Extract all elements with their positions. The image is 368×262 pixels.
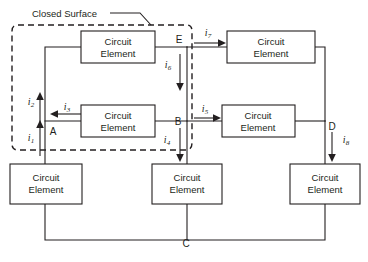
node-label-D: D xyxy=(328,121,335,132)
arrow-head xyxy=(176,154,184,162)
current-label-i4: i4 xyxy=(164,134,171,147)
current-arrow-i8 xyxy=(328,132,336,162)
current-label-i3: i3 xyxy=(64,101,71,114)
current-label-i8: i8 xyxy=(343,134,350,147)
current-label-i1: i1 xyxy=(28,132,34,145)
circuit-element-bottom-left[interactable]: Circuit Element xyxy=(10,164,82,204)
circuit-element-label-line2: Element xyxy=(29,184,64,195)
circuit-diagram-canvas: Circuit Element Circuit Element Circuit … xyxy=(0,0,368,262)
circuit-element-label-line1: Circuit xyxy=(174,172,201,183)
arrow-head xyxy=(36,92,44,100)
wire-network xyxy=(45,47,325,240)
circuit-element-label-line1: Circuit xyxy=(105,36,132,47)
diagram-svg: Circuit Element Circuit Element Circuit … xyxy=(0,0,368,262)
circuit-element-label-line2: Element xyxy=(254,48,289,59)
circuit-element-middle-left[interactable]: Circuit Element xyxy=(81,105,155,137)
wire-bottom-rail xyxy=(45,204,325,240)
arrow-head xyxy=(50,110,58,118)
current-label-i5: i5 xyxy=(202,103,209,116)
current-arrow-i7 xyxy=(194,39,226,47)
current-arrow-i2 xyxy=(36,92,44,125)
circuit-element-label-line2: Element xyxy=(170,184,205,195)
current-label-i7: i7 xyxy=(205,27,212,40)
wire-top-right-to-d xyxy=(315,47,325,121)
current-arrow-i6 xyxy=(176,54,184,91)
circuit-element-label-line2: Element xyxy=(308,184,343,195)
arrow-head xyxy=(328,154,336,162)
closed-surface-leader-line xyxy=(110,13,151,25)
circuit-element-label-line1: Circuit xyxy=(245,110,272,121)
circuit-element-label-line2: Element xyxy=(101,48,136,59)
circuit-element-bottom-right[interactable]: Circuit Element xyxy=(290,164,360,204)
closed-surface-label: Closed Surface xyxy=(32,8,97,19)
circuit-element-top-right[interactable]: Circuit Element xyxy=(227,31,315,63)
current-label-i2: i2 xyxy=(28,96,35,109)
circuit-element-label-line1: Circuit xyxy=(105,110,132,121)
current-label-i6: i6 xyxy=(165,59,172,72)
circuit-element-label-line1: Circuit xyxy=(258,36,285,47)
circuit-element-label-line2: Element xyxy=(241,122,276,133)
arrow-head xyxy=(176,83,184,91)
node-label-E: E xyxy=(176,34,183,45)
circuit-element-bottom-middle[interactable]: Circuit Element xyxy=(152,164,222,204)
circuit-element-top-left[interactable]: Circuit Element xyxy=(81,31,155,63)
current-arrow-i4 xyxy=(176,128,184,162)
circuit-element-label-line1: Circuit xyxy=(312,172,339,183)
node-label-A: A xyxy=(50,126,57,137)
arrow-head xyxy=(218,39,226,47)
circuit-element-middle-right[interactable]: Circuit Element xyxy=(222,105,295,137)
circuit-element-label-line2: Element xyxy=(101,122,136,133)
node-label-B: B xyxy=(175,116,182,127)
node-label-C: C xyxy=(182,238,189,249)
circuit-element-label-line1: Circuit xyxy=(33,172,60,183)
